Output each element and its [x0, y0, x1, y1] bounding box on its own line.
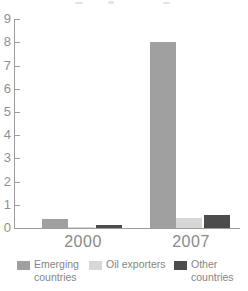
cropped-text-remnant — [75, 2, 83, 4]
x-axis-label-2000: 2000 — [33, 233, 133, 251]
y-tick-5 — [15, 112, 20, 113]
legend-swatch-oil-exporters — [89, 261, 102, 270]
y-tick-0 — [15, 228, 20, 229]
y-tick-3 — [15, 158, 20, 159]
y-tick-label-3: 3 — [0, 150, 11, 165]
legend-label-oil-exporters: Oil exporters — [106, 258, 166, 271]
y-tick-label-2: 2 — [0, 174, 11, 189]
y-tick-label-6: 6 — [0, 81, 11, 96]
x-axis-line — [14, 228, 240, 229]
y-tick-label-4: 4 — [0, 127, 11, 142]
y-tick-label-8: 8 — [0, 34, 11, 49]
y-tick-7 — [15, 66, 20, 67]
legend-item-emerging-countries: Emerging countries — [17, 258, 79, 284]
y-tick-8 — [15, 42, 20, 43]
bar-2007-other-countries — [204, 215, 230, 228]
y-tick-9 — [15, 19, 20, 20]
bar-chart: 0123456789 20002007 Emerging countriesOi… — [0, 0, 248, 291]
legend-item-oil-exporters: Oil exporters — [89, 258, 166, 271]
cropped-text-remnant — [108, 1, 114, 4]
bar-2007-emerging-countries — [150, 42, 176, 228]
legend-label-emerging-countries: Emerging countries — [34, 258, 79, 284]
y-tick-label-0: 0 — [0, 220, 11, 235]
bar-2000-oil-exporters — [68, 227, 94, 228]
y-tick-label-5: 5 — [0, 104, 11, 119]
bar-2000-emerging-countries — [42, 219, 68, 228]
cropped-text-remnant — [163, 2, 170, 4]
legend-label-other-countries: Other countries — [191, 258, 234, 284]
y-tick-4 — [15, 135, 20, 136]
y-axis-line — [14, 19, 15, 228]
legend-swatch-other-countries — [174, 261, 187, 270]
bar-2000-other-countries — [96, 225, 122, 228]
y-tick-label-1: 1 — [0, 197, 11, 212]
y-tick-6 — [15, 89, 20, 90]
y-tick-label-7: 7 — [0, 58, 11, 73]
legend-item-other-countries: Other countries — [174, 258, 234, 284]
bar-2007-oil-exporters — [176, 218, 202, 228]
legend-swatch-emerging-countries — [17, 261, 30, 270]
x-axis-label-2007: 2007 — [141, 233, 241, 251]
y-tick-2 — [15, 182, 20, 183]
y-tick-label-9: 9 — [0, 11, 11, 26]
y-tick-1 — [15, 205, 20, 206]
